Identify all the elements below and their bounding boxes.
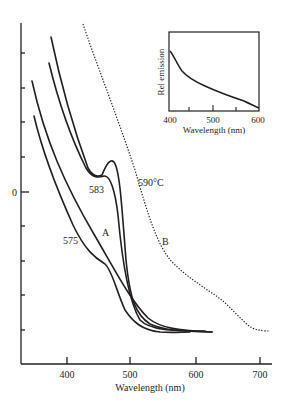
inset-x-axis-title: Wavelength (nm) — [183, 125, 246, 135]
label-575: 575 — [63, 235, 78, 246]
inset-x-tick-600: 600 — [251, 115, 265, 125]
label-A: A — [102, 227, 110, 238]
inset-x-tick-400: 400 — [163, 115, 177, 125]
inset-y-axis-title: Rel emission — [156, 48, 166, 95]
y-zero-label: 0 — [12, 187, 17, 198]
x-tick-500: 500 — [123, 369, 138, 380]
x-axis-title: Wavelength (nm) — [115, 382, 184, 394]
inset-chart: 400 500 600 Wavelength (nm) Rel emission — [156, 32, 265, 135]
label-590: 590°C — [138, 177, 164, 188]
chart-canvas: 0 400 500 600 700 Wavelength (nm) 575 58… — [0, 0, 287, 409]
inset-x-tick-500: 500 — [206, 115, 220, 125]
x-tick-600: 600 — [189, 369, 204, 380]
label-B: B — [162, 236, 169, 247]
curve-575 — [34, 116, 190, 332]
x-tick-700: 700 — [253, 369, 268, 380]
x-tick-400: 400 — [60, 369, 75, 380]
label-583: 583 — [89, 184, 104, 195]
